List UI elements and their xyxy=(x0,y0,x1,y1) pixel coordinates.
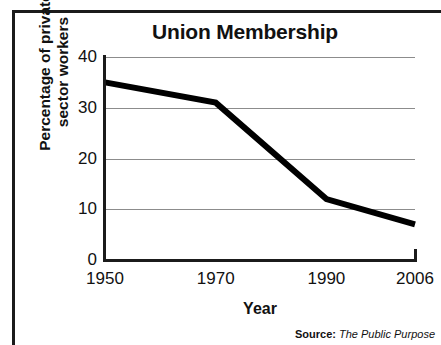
chart-title: Union Membership xyxy=(60,20,430,44)
x-axis-line xyxy=(103,259,416,262)
y-axis-line xyxy=(103,55,106,262)
y-axis-title-text: Percentage of private sector workers xyxy=(36,0,72,151)
x-tick-label: 1950 xyxy=(86,269,124,289)
y-axis-title: Percentage of private sector workers xyxy=(24,0,84,182)
x-axis-end-tick xyxy=(414,249,417,262)
figure-border-left xyxy=(12,10,15,345)
x-tick-label: 1990 xyxy=(308,269,346,289)
y-tick-label: 40 xyxy=(78,47,97,67)
plot-area: 010203040 1950197019902006 xyxy=(105,57,415,260)
x-tick-label: 1970 xyxy=(197,269,235,289)
source-credit: Source: The Public Purpose xyxy=(295,328,435,340)
x-tick-label: 2006 xyxy=(396,269,434,289)
y-tick-label: 30 xyxy=(78,98,97,118)
y-tick-label: 0 xyxy=(88,250,97,270)
y-tick-label: 10 xyxy=(78,199,97,219)
x-axis-title: Year xyxy=(105,300,415,318)
source-value: The Public Purpose xyxy=(339,328,435,340)
source-label: Source: xyxy=(295,328,336,340)
data-series-line xyxy=(105,57,415,260)
chart-figure: Union Membership Percentage of private s… xyxy=(0,0,441,345)
union-membership-line xyxy=(105,82,415,224)
y-tick-label: 20 xyxy=(78,149,97,169)
